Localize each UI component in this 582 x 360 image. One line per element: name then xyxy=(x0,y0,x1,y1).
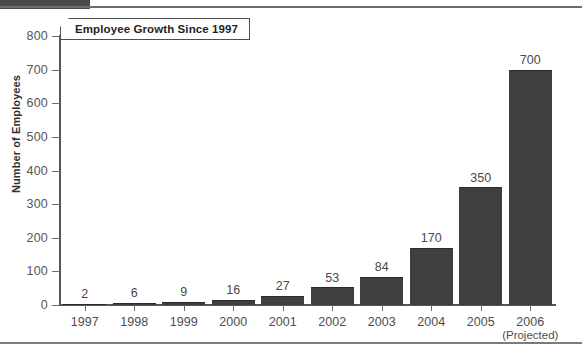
y-axis-label: 600 xyxy=(0,97,48,110)
bar-value-label: 350 xyxy=(448,172,513,185)
bar[interactable] xyxy=(459,187,502,305)
bar-group[interactable]: 350 xyxy=(459,36,502,305)
bar-value-label: 700 xyxy=(498,54,563,67)
bar-value-label: 170 xyxy=(399,232,464,245)
x-axis-tick xyxy=(184,305,185,311)
bar[interactable] xyxy=(360,277,403,305)
bar-group[interactable]: 700 xyxy=(509,36,552,305)
plot-area: 26916275384170350700 xyxy=(60,36,555,305)
bar-group[interactable]: 170 xyxy=(410,36,453,305)
x-axis-tick xyxy=(431,305,432,311)
x-axis-tick xyxy=(382,305,383,311)
y-axis-tick xyxy=(52,271,60,272)
bar-chart: Employee Growth Since 1997 Number of Emp… xyxy=(0,10,582,340)
x-axis-tick xyxy=(283,305,284,311)
x-axis-sublabel: (Projected) xyxy=(495,329,565,342)
x-axis-label: 2006(Projected) xyxy=(495,315,565,343)
y-axis-label: 400 xyxy=(0,165,48,178)
bar-group[interactable]: 6 xyxy=(113,36,156,305)
bar-group[interactable]: 84 xyxy=(360,36,403,305)
bar-group[interactable]: 2 xyxy=(63,36,106,305)
bar[interactable] xyxy=(311,287,354,305)
y-axis-label: 0 xyxy=(0,299,48,312)
y-axis-tick xyxy=(52,137,60,138)
y-axis-label: 300 xyxy=(0,198,48,211)
y-axis-tick xyxy=(52,36,60,37)
y-axis-label: 500 xyxy=(0,131,48,144)
y-axis-label: 100 xyxy=(0,265,48,278)
bar-group[interactable]: 9 xyxy=(162,36,205,305)
bar-group[interactable]: 16 xyxy=(212,36,255,305)
bar-group[interactable]: 27 xyxy=(261,36,304,305)
y-axis-tick xyxy=(52,70,60,71)
bar-group[interactable]: 53 xyxy=(311,36,354,305)
y-axis-tick xyxy=(52,238,60,239)
bar[interactable] xyxy=(509,70,552,305)
y-axis-tick xyxy=(52,103,60,104)
bar[interactable] xyxy=(410,248,453,305)
y-axis-tick xyxy=(52,171,60,172)
bar[interactable] xyxy=(261,296,304,305)
page-rule-top xyxy=(0,6,582,8)
x-axis-tick xyxy=(481,305,482,311)
y-axis-tick xyxy=(52,204,60,205)
y-axis-label: 800 xyxy=(0,30,48,43)
y-axis-label: 700 xyxy=(0,64,48,77)
x-axis-tick xyxy=(530,305,531,311)
y-axis-label: 200 xyxy=(0,232,48,245)
x-axis-tick xyxy=(134,305,135,311)
x-axis-tick xyxy=(233,305,234,311)
x-axis-tick xyxy=(332,305,333,311)
x-axis-tick xyxy=(85,305,86,311)
bar-value-label: 84 xyxy=(349,261,414,274)
y-axis-tick xyxy=(52,305,60,306)
